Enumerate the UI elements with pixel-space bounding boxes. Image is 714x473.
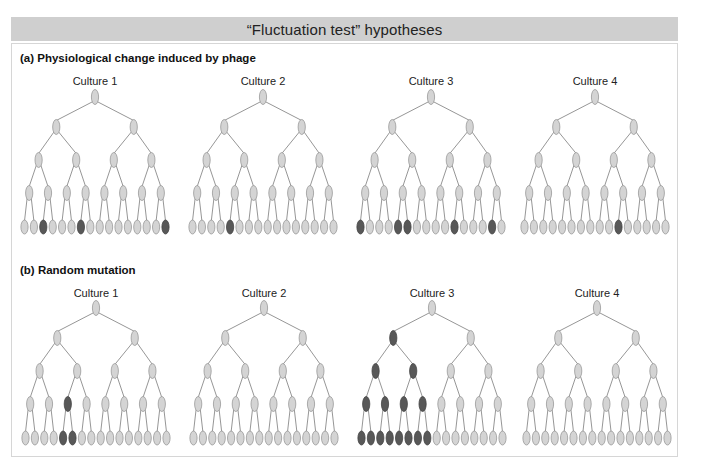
bacterial-cell-icon xyxy=(217,220,224,234)
lineage-line xyxy=(30,376,37,398)
bacterial-cell-icon xyxy=(555,331,562,346)
bacterial-cell-icon xyxy=(213,397,220,412)
lineage-line xyxy=(219,409,222,433)
lineage-line xyxy=(606,376,613,398)
lineage-line xyxy=(636,132,652,154)
lineage-line xyxy=(41,165,48,187)
bacterial-cell-icon xyxy=(121,397,128,412)
bacterial-cell-icon xyxy=(204,364,211,379)
lineage-line xyxy=(250,409,253,433)
lineage-line xyxy=(325,409,328,433)
lineage-line xyxy=(493,409,496,433)
bacterial-cell-icon xyxy=(97,431,104,445)
lineage-line xyxy=(143,376,150,398)
lineage-line xyxy=(418,409,421,433)
lineage-line xyxy=(658,409,661,433)
lineage-line xyxy=(529,165,536,187)
bacterial-cell-icon xyxy=(153,220,160,234)
bacterial-cell-icon xyxy=(148,153,155,168)
bacterial-cell-icon xyxy=(471,431,478,445)
lineage-line xyxy=(606,198,609,222)
bacterial-cell-icon xyxy=(21,220,28,234)
bacterial-cell-icon xyxy=(561,431,568,445)
lineage-line xyxy=(378,376,385,398)
bacterial-cell-icon xyxy=(45,397,52,412)
bacterial-cell-icon xyxy=(362,186,369,201)
lineage-line xyxy=(50,198,53,222)
bacterial-cell-icon xyxy=(596,220,603,234)
lineage-line xyxy=(434,313,471,332)
bacterial-cell-icon xyxy=(598,431,605,445)
bacterial-cell-icon xyxy=(428,301,435,316)
bacterial-cell-icon xyxy=(120,186,127,201)
lineage-line xyxy=(32,409,35,433)
lineage-line xyxy=(268,198,271,222)
bacterial-cell-icon xyxy=(35,153,42,168)
lineage-line xyxy=(637,198,640,222)
lineage-line xyxy=(145,409,148,433)
bacterial-cell-icon xyxy=(78,431,85,445)
bacterial-cell-icon xyxy=(189,220,196,234)
bacterial-cell-icon xyxy=(101,186,108,201)
lineage-line xyxy=(655,376,662,398)
lineage-line xyxy=(56,102,93,121)
bacterial-cell-icon xyxy=(259,90,266,105)
lineage-line xyxy=(59,343,77,365)
bacterial-cell-icon xyxy=(50,431,57,445)
bacterial-cell-icon xyxy=(246,431,253,445)
lineage-line xyxy=(207,132,223,154)
bacterial-cell-icon xyxy=(195,397,202,412)
lineage-line xyxy=(399,409,402,433)
bacterial-cell-icon xyxy=(321,220,328,234)
bacterial-cell-icon xyxy=(657,186,664,201)
bacterial-cell-icon xyxy=(157,186,164,201)
bacterial-cell-icon xyxy=(331,431,338,445)
bacterial-cell-icon xyxy=(138,186,145,201)
bacterial-cell-icon xyxy=(546,397,553,412)
lineage-line xyxy=(224,102,261,121)
lineage-line xyxy=(621,409,624,433)
bacterial-cell-icon xyxy=(643,220,650,234)
bacterial-cell-icon xyxy=(199,431,206,445)
lineage-line xyxy=(70,409,73,433)
lineage-line xyxy=(604,165,611,187)
lineage-line xyxy=(81,198,84,222)
lineage-line xyxy=(100,198,103,222)
lineage-line xyxy=(67,165,74,187)
bacterial-cell-icon xyxy=(303,431,310,445)
lineage-line xyxy=(525,198,528,222)
lineage-line xyxy=(377,165,384,187)
lineage-line xyxy=(137,198,140,222)
bacterial-cell-icon xyxy=(44,186,51,201)
lineage-line xyxy=(361,198,364,222)
bacterial-cell-icon xyxy=(278,153,285,168)
lineage-line xyxy=(478,165,485,187)
lineage-line xyxy=(569,198,572,222)
lineage-line xyxy=(58,132,76,154)
bacterial-cell-icon xyxy=(298,120,305,135)
lineage-line xyxy=(26,409,29,433)
bacterial-cell-icon xyxy=(521,220,528,234)
bacterial-cell-icon xyxy=(457,397,464,412)
lineage-tree-a-culture-3 xyxy=(357,90,505,235)
bacterial-cell-icon xyxy=(537,364,544,379)
lineage-line xyxy=(653,165,660,187)
bacterial-cell-icon xyxy=(250,186,257,201)
lineage-line xyxy=(105,376,112,398)
lineage-line xyxy=(294,409,297,433)
lineage-line xyxy=(616,165,623,187)
bacterial-cell-icon xyxy=(475,397,482,412)
lineage-line xyxy=(564,409,567,433)
lineage-line xyxy=(642,165,649,187)
bacterial-cell-icon xyxy=(302,220,309,234)
bacterial-cell-icon xyxy=(591,90,598,105)
lineage-line xyxy=(39,132,55,154)
bacterial-cell-icon xyxy=(380,186,387,201)
lineage-line xyxy=(440,165,447,187)
lineage-line xyxy=(379,198,382,222)
resistant-cell-icon xyxy=(64,397,71,412)
bacterial-cell-icon xyxy=(26,186,33,201)
lineage-line xyxy=(375,132,391,154)
lineage-line xyxy=(588,198,591,222)
lineage-tree-b-culture-2 xyxy=(190,301,338,446)
